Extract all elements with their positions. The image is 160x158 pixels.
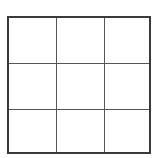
cell-r0-c1[interactable] (57, 18, 105, 64)
cell-r2-c1[interactable] (57, 110, 105, 152)
cell-r2-c0[interactable] (9, 110, 57, 152)
cell-r2-c2[interactable] (105, 110, 149, 152)
tic-tac-toe-board (7, 16, 151, 154)
cell-r1-c1[interactable] (57, 64, 105, 110)
cell-r0-c2[interactable] (105, 18, 149, 64)
cell-r1-c2[interactable] (105, 64, 149, 110)
cell-r1-c0[interactable] (9, 64, 57, 110)
cell-r0-c0[interactable] (9, 18, 57, 64)
